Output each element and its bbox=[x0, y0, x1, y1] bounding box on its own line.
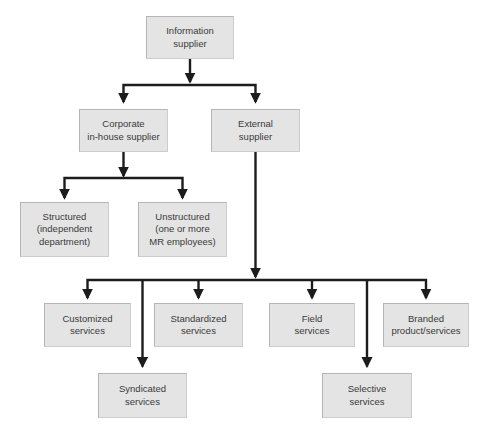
edge-branch-customized-branded bbox=[88, 280, 427, 298]
node-external-supplier: External supplier bbox=[211, 109, 300, 152]
node-information-supplier: Information supplier bbox=[146, 16, 234, 59]
node-syndicated-services: Syndicated services bbox=[98, 373, 187, 418]
node-structured: Structured (independent department) bbox=[20, 202, 109, 257]
org-chart-figure: Information supplier Corporate in-house … bbox=[0, 0, 490, 434]
node-standardized-services: Standardized services bbox=[154, 303, 243, 347]
edge-branch-structured-unstructured bbox=[65, 178, 183, 198]
node-selective-services: Selective services bbox=[322, 373, 412, 418]
node-branded-product-services: Branded product/services bbox=[383, 303, 469, 347]
edge-branch-corporate-external bbox=[124, 85, 256, 102]
node-field-services: Field services bbox=[269, 303, 355, 347]
node-corporate-in-house-supplier: Corporate in-house supplier bbox=[79, 109, 168, 152]
node-customized-services: Customized services bbox=[44, 303, 131, 347]
node-unstructured: Unstructured (one or more MR employees) bbox=[138, 202, 227, 257]
